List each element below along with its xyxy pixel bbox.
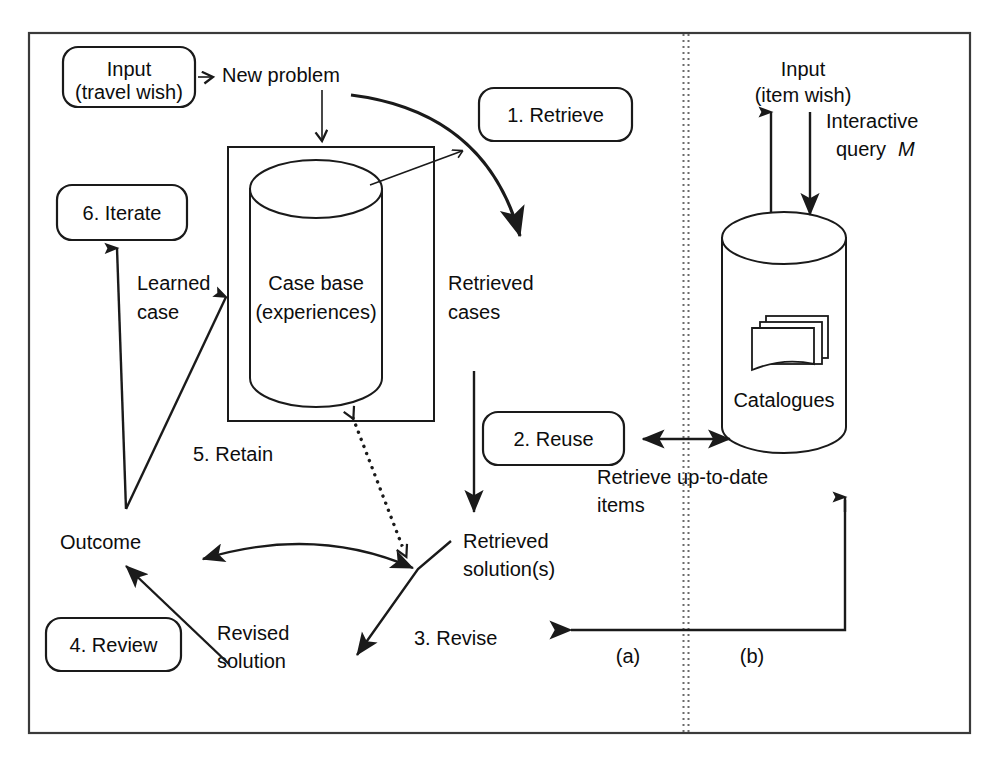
retrieved-solution-label-line2: solution(s) xyxy=(463,558,555,580)
path-a-label: (a) xyxy=(616,645,640,667)
arrow-outcome-retrieved-solution-curve xyxy=(203,544,413,568)
input-travel-wish-box[interactable]: Input (travel wish) xyxy=(63,47,195,107)
arrow-outcome-to-case-base-retain xyxy=(126,297,226,509)
step-6-iterate-label: 6. Iterate xyxy=(83,202,162,224)
retrieved-cases-label-line1: Retrieved xyxy=(448,272,534,294)
outcome-label: Outcome xyxy=(60,531,141,553)
arrow-case-base-retrieved-solution-dotted xyxy=(353,418,406,556)
arrow-case-base-to-retrieve-curve xyxy=(370,151,462,185)
step-1-retrieve-box[interactable]: 1. Retrieve xyxy=(479,88,632,141)
input-travel-wish-label-line1: Input xyxy=(107,58,152,80)
catalogues-group: Catalogues xyxy=(722,212,846,453)
vertical-dotted-divider xyxy=(684,34,689,732)
input-item-wish-label-line1: Input xyxy=(781,58,826,80)
interactive-query-label-line1: Interactive xyxy=(826,110,918,132)
stacked-documents-icon xyxy=(752,316,828,370)
input-travel-wish-label-line2: (travel wish) xyxy=(75,81,183,103)
retrieve-uptodate-label-line1: Retrieve up-to-date xyxy=(597,466,768,488)
step-5-retain-label: 5. Retain xyxy=(193,443,273,465)
retrieved-solution-label-line1: Retrieved xyxy=(463,530,549,552)
cbr-cycle-diagram: Input (travel wish) 1. Retrieve 6. Itera… xyxy=(0,0,996,764)
interactive-query-variable: M xyxy=(898,138,915,160)
step-4-review-box[interactable]: 4. Review xyxy=(46,618,181,671)
input-item-wish-label-line2: (item wish) xyxy=(755,84,852,106)
new-problem-label: New problem xyxy=(222,64,340,86)
interactive-query-label-line2-prefix: query xyxy=(836,138,886,160)
path-b-label: (b) xyxy=(740,645,764,667)
case-base-group: Case base (experiences) xyxy=(228,147,434,421)
case-base-label-line2: (experiences) xyxy=(255,301,376,323)
step-2-reuse-box[interactable]: 2. Reuse xyxy=(483,412,624,465)
catalogues-label: Catalogues xyxy=(733,389,834,411)
retrieve-uptodate-label-line2: items xyxy=(597,494,645,516)
learned-case-label-line1: Learned xyxy=(137,272,210,294)
learned-case-label-line2: case xyxy=(137,301,179,323)
retrieved-cases-label-line2: cases xyxy=(448,301,500,323)
interactive-query-label-line2: query M xyxy=(836,138,915,160)
step-4-review-label: 4. Review xyxy=(70,634,158,656)
step-1-retrieve-label: 1. Retrieve xyxy=(507,104,604,126)
step-6-iterate-box[interactable]: 6. Iterate xyxy=(57,185,187,240)
step-2-reuse-label: 2. Reuse xyxy=(513,428,593,450)
case-base-label-line1: Case base xyxy=(268,272,364,294)
revised-solution-label-line1: Revised xyxy=(217,622,289,644)
step-3-revise-label: 3. Revise xyxy=(414,627,497,649)
arrow-path-a-b xyxy=(571,500,845,630)
arrow-outcome-to-iterate xyxy=(117,248,126,509)
diagram-canvas: Input (travel wish) 1. Retrieve 6. Itera… xyxy=(0,0,996,764)
